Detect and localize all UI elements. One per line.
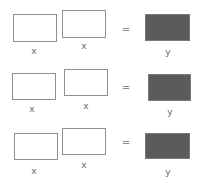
input-label-1: x <box>28 46 40 56</box>
equals-sign: = <box>120 25 132 35</box>
input-box-1 <box>13 14 57 42</box>
input-label-2: x <box>80 101 92 111</box>
output-label: y <box>162 47 174 57</box>
input-label-1: x <box>28 166 40 176</box>
output-label: y <box>162 167 174 177</box>
input-box-2 <box>62 128 106 155</box>
input-label-2: x <box>78 41 90 51</box>
input-box-1 <box>14 133 58 160</box>
output-label: y <box>164 107 176 117</box>
equals-sign: = <box>120 83 132 93</box>
input-box-2 <box>64 69 108 96</box>
output-box <box>145 133 190 159</box>
output-box <box>148 74 191 101</box>
input-label-2: x <box>78 160 90 170</box>
input-label-1: x <box>26 104 38 114</box>
equals-sign: = <box>120 138 132 148</box>
output-box <box>145 14 190 41</box>
input-box-1 <box>12 73 56 100</box>
input-box-2 <box>62 10 106 38</box>
